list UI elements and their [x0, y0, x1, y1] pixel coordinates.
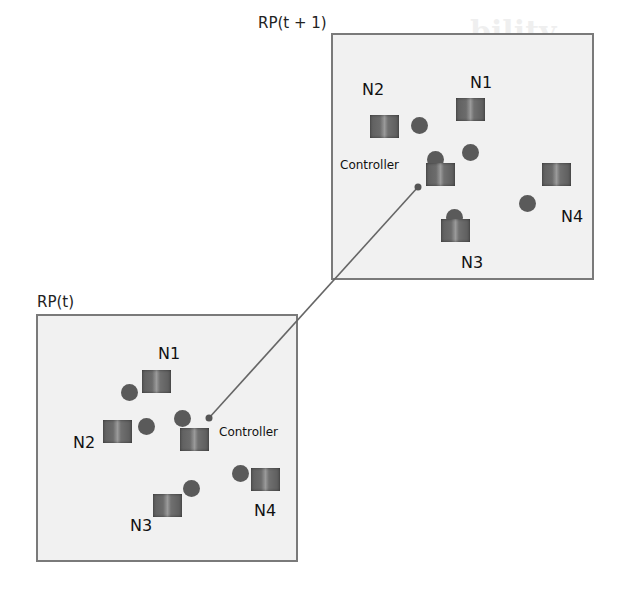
controller-device-icon — [426, 163, 455, 186]
node-dot-icon — [121, 384, 138, 401]
region-rp-t: N1 N2 N3 N4 Controller — [36, 314, 298, 562]
node-dot-icon — [232, 465, 249, 482]
controller-label: Controller — [340, 158, 399, 172]
node-label-n3: N3 — [130, 516, 152, 535]
device-icon — [153, 494, 182, 517]
node-label-n4: N4 — [561, 207, 583, 226]
region-label-rp-t: RP(t) — [37, 293, 74, 311]
device-icon — [142, 370, 171, 393]
node-dot-icon — [462, 144, 479, 161]
node-label-n1: N1 — [158, 344, 180, 363]
node-label-n2: N2 — [362, 80, 384, 99]
controller-label: Controller — [219, 425, 278, 439]
node-label-n1: N1 — [470, 73, 492, 92]
device-icon — [456, 98, 485, 121]
node-label-n3: N3 — [461, 253, 483, 272]
region-rp-t1: N2 N1 N4 N3 Controller — [331, 33, 594, 280]
device-icon — [441, 219, 470, 242]
device-icon — [542, 163, 571, 186]
controller-device-icon — [180, 428, 209, 451]
device-icon — [251, 468, 280, 491]
node-label-n2: N2 — [73, 433, 95, 452]
node-dot-icon — [519, 195, 536, 212]
node-label-n4: N4 — [254, 501, 276, 520]
device-icon — [370, 115, 399, 138]
node-dot-icon — [174, 410, 191, 427]
region-label-rp-t1: RP(t + 1) — [258, 14, 327, 32]
node-dot-icon — [183, 480, 200, 497]
node-dot-icon — [411, 117, 428, 134]
device-icon — [103, 420, 132, 443]
node-dot-icon — [138, 418, 155, 435]
